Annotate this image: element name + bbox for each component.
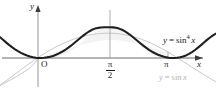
sinx-variable: x [183, 72, 187, 82]
curve-label-sin-x: y=sinx [159, 73, 187, 82]
pi-over-2-denominator: 2 [101, 71, 119, 80]
y-axis-arrow [35, 5, 40, 12]
figure-sin4x-graph: y O π 2 π x y=sin4x y=sinx [0, 0, 216, 90]
x-tick-label-pi-over-2: π 2 [101, 60, 119, 81]
sin4-variable: x [191, 35, 195, 45]
curve-label-sin-fourth-x: y=sin4x [163, 34, 195, 45]
sinx-equals: = [165, 72, 170, 82]
x-tick-label-pi: π [164, 60, 169, 69]
sinx-lhs: y [159, 72, 163, 82]
sin4-equals: = [169, 35, 174, 45]
sin4-lhs: y [163, 35, 167, 45]
sin4-exponent: 4 [187, 33, 190, 40]
pi-over-2-numerator: π [101, 60, 119, 69]
sinx-function: sin [172, 72, 182, 82]
y-axis-label: y [30, 2, 34, 11]
sin4-function: sin [176, 35, 187, 45]
origin-label: O [41, 60, 48, 69]
x-axis-label: x [197, 60, 201, 69]
